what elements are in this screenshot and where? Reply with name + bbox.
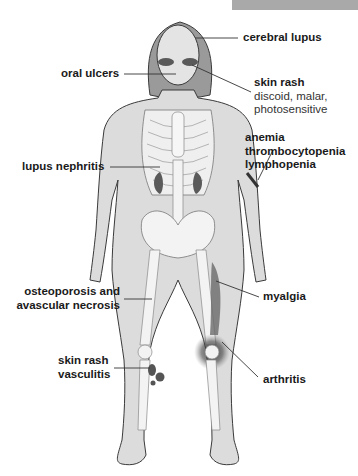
label-lupus-nephritis: lupus nephritis xyxy=(22,160,104,174)
blood-line1: anemia xyxy=(245,131,345,145)
label-arthritis: arthritis xyxy=(263,373,306,387)
label-oral-ulcers: oral ulcers xyxy=(61,67,119,81)
skin-rash-face-title: skin rash xyxy=(254,76,328,90)
vasculitis-spot-2 xyxy=(156,373,165,382)
malar-rash-right xyxy=(182,58,198,66)
label-cerebral-lupus: cerebral lupus xyxy=(243,31,322,45)
label-skin-rash-face: skin rash discoid, malar, photosensitive xyxy=(254,76,328,117)
osteoporosis-line1: osteoporosis and xyxy=(10,285,120,299)
label-osteoporosis: osteoporosis and avascular necrosis xyxy=(10,285,120,312)
skin-rash-face-line2: photosensitive xyxy=(254,103,328,117)
blood-line3: lymphopenia xyxy=(245,158,345,172)
label-myalgia: myalgia xyxy=(263,290,306,304)
skin-rash-face-line1: discoid, malar, xyxy=(254,90,328,104)
spine xyxy=(173,160,183,228)
label-blood-disorders: anemia thrombocytopenia lymphopenia xyxy=(245,131,345,172)
skin-rash-leg-line2: vasculitis xyxy=(58,368,110,382)
osteoporosis-line2: avascular necrosis xyxy=(10,299,120,313)
face xyxy=(157,25,199,85)
vasculitis-spot-1 xyxy=(148,364,156,376)
sternum xyxy=(172,112,184,157)
knee-right xyxy=(205,345,219,359)
label-skin-rash-leg: skin rash vasculitis xyxy=(58,354,110,381)
malar-rash-left xyxy=(158,58,174,66)
vasculitis-spot-3 xyxy=(151,381,156,386)
blood-line2: thrombocytopenia xyxy=(245,145,345,159)
knee-left xyxy=(138,345,152,359)
body-figure xyxy=(0,0,358,476)
skin-rash-leg-line1: skin rash xyxy=(58,354,110,368)
